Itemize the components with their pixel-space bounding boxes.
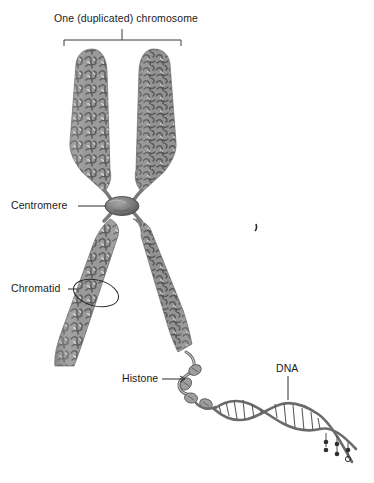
histone-label: Histone: [122, 372, 158, 384]
chromosome-diagram: One (duplicated) chromosome: [0, 0, 374, 483]
centromere-label: Centromere: [11, 199, 67, 211]
centromere: [105, 197, 139, 216]
chromatid-label: Chromatid: [11, 282, 60, 294]
dna-label: DNA: [276, 362, 298, 374]
chromosome-label: One (duplicated) chromosome: [54, 12, 198, 24]
diagram-canvas: One (duplicated) chromosome: [0, 0, 374, 483]
diagram-background: [0, 0, 374, 483]
